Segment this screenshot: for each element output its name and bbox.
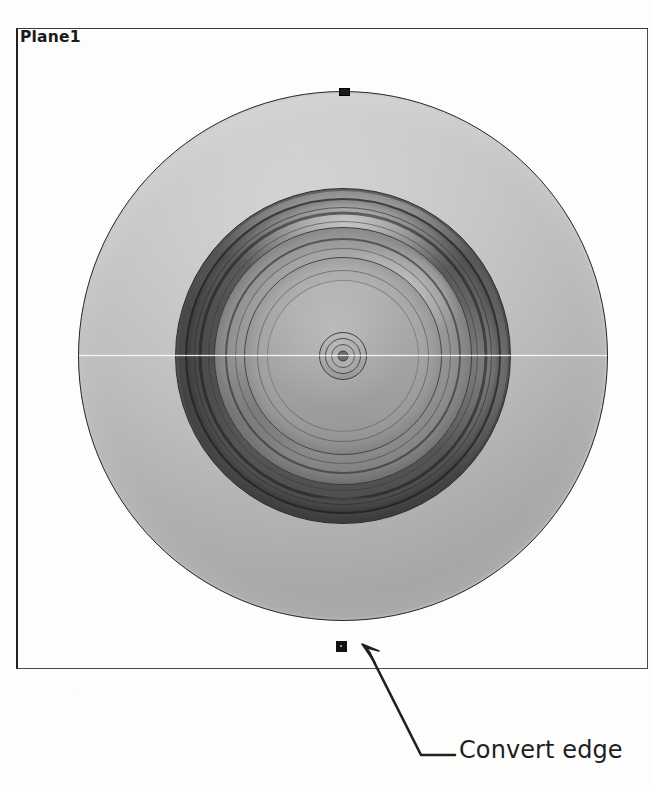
sketch-point-bottom[interactable] (336, 641, 347, 652)
horizontal-construction-line[interactable] (79, 355, 607, 356)
callout-label: Convert edge (459, 738, 623, 762)
plane-label: Plane1 (20, 30, 81, 46)
sketch-point-top[interactable] (339, 88, 350, 96)
